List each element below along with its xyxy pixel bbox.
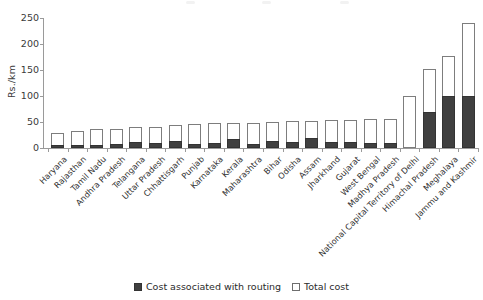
- plot-area: [48, 18, 478, 148]
- bar-routing-cost: [90, 145, 103, 148]
- x-tick-mark: [361, 149, 362, 152]
- x-tick-mark: [341, 149, 342, 152]
- x-axis-line: [43, 148, 479, 149]
- bar-routing-cost: [149, 143, 162, 148]
- bar-group: [305, 18, 318, 148]
- scan-artifact: [262, 1, 271, 4]
- bar-routing-cost: [188, 144, 201, 148]
- y-axis-line: [43, 18, 44, 149]
- bar-routing-cost: [51, 145, 64, 148]
- scan-artifact: [186, 1, 195, 4]
- x-tick-mark: [400, 149, 401, 152]
- x-tick-mark: [185, 149, 186, 152]
- bar-group: [384, 18, 397, 148]
- y-tick-label: 200: [13, 39, 39, 49]
- y-tick-label: 150: [13, 65, 39, 75]
- bar-routing-cost: [325, 142, 338, 148]
- bar-group: [71, 18, 84, 148]
- bar-group: [149, 18, 162, 148]
- bar-routing-cost: [384, 143, 397, 148]
- x-tick-mark: [419, 149, 420, 152]
- bar-group: [208, 18, 221, 148]
- bar-group: [247, 18, 260, 148]
- x-tick-mark: [107, 149, 108, 152]
- y-tick-label: 100: [13, 91, 39, 101]
- bar-group: [286, 18, 299, 148]
- bar-group: [403, 18, 416, 148]
- y-tick-label: 0: [13, 143, 39, 153]
- x-tick-mark: [283, 149, 284, 152]
- bar-routing-cost: [208, 143, 221, 148]
- legend-entry[interactable]: Cost associated with routing: [134, 281, 281, 292]
- x-tick-mark: [263, 149, 264, 152]
- bar-group: [90, 18, 103, 148]
- x-tick-mark: [243, 149, 244, 152]
- bar-group: [442, 18, 455, 148]
- legend-entry[interactable]: Total cost: [292, 281, 349, 292]
- bar-group: [423, 18, 436, 148]
- legend-label: Total cost: [304, 281, 349, 292]
- bar-routing-cost: [442, 96, 455, 148]
- x-tick-mark: [146, 149, 147, 152]
- y-tick-label: 250: [13, 13, 39, 23]
- bar-routing-cost: [344, 142, 357, 148]
- bar-routing-cost: [247, 144, 260, 148]
- x-tick-mark: [224, 149, 225, 152]
- bar-group: [364, 18, 377, 148]
- x-tick-mark: [458, 149, 459, 152]
- x-tick-mark: [165, 149, 166, 152]
- y-tick-label: 50: [13, 117, 39, 127]
- x-tick-mark: [48, 149, 49, 152]
- x-tick-mark: [87, 149, 88, 152]
- x-tick-mark: [302, 149, 303, 152]
- bar-routing-cost: [71, 145, 84, 148]
- x-tick-mark: [478, 149, 479, 152]
- bar-group: [325, 18, 338, 148]
- bar-group: [110, 18, 123, 148]
- bar-group: [227, 18, 240, 148]
- legend-swatch-total-icon: [292, 283, 300, 291]
- x-tick-mark: [380, 149, 381, 152]
- bar-routing-cost: [169, 141, 182, 148]
- x-tick-mark: [439, 149, 440, 152]
- chart-legend: Cost associated with routingTotal cost: [0, 281, 483, 292]
- bar-group: [129, 18, 142, 148]
- bar-group: [51, 18, 64, 148]
- bar-routing-cost: [286, 142, 299, 148]
- bar-chart: Rs./km 050100150200250 HaryanaRajasthanT…: [0, 0, 483, 300]
- bar-routing-cost: [110, 144, 123, 148]
- x-tick-mark: [204, 149, 205, 152]
- bar-total-cost: [403, 96, 416, 148]
- bar-routing-cost: [423, 112, 436, 148]
- x-tick-mark: [126, 149, 127, 152]
- bar-routing-cost: [129, 142, 142, 148]
- x-tick-mark: [322, 149, 323, 152]
- bar-group: [169, 18, 182, 148]
- bar-group: [344, 18, 357, 148]
- bar-group: [188, 18, 201, 148]
- bar-routing-cost: [462, 96, 475, 148]
- bar-routing-cost: [227, 139, 240, 148]
- x-tick-mark: [68, 149, 69, 152]
- bar-routing-cost: [266, 141, 279, 148]
- scan-artifact: [340, 1, 349, 4]
- bar-routing-cost: [305, 138, 318, 148]
- bar-routing-cost: [364, 143, 377, 148]
- legend-swatch-routing-icon: [134, 283, 142, 291]
- legend-label: Cost associated with routing: [146, 281, 281, 292]
- bar-group: [462, 18, 475, 148]
- y-axis-title: Rs./km: [6, 52, 17, 112]
- bar-group: [266, 18, 279, 148]
